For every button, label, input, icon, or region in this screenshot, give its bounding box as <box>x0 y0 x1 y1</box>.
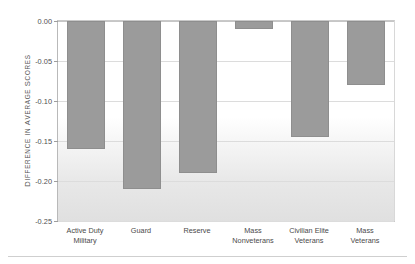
y-axis-tick-mark <box>54 141 58 142</box>
bar <box>291 21 329 137</box>
y-axis-title-part: VERAGE <box>24 86 31 119</box>
y-axis-tick-label: -0.10 <box>35 97 52 106</box>
x-axis-category-label: Civilian Elite Veterans <box>281 226 337 245</box>
bar <box>235 21 273 29</box>
plot-area: 0.00-0.05-0.10-0.15-0.20-0.25 <box>57 20 395 222</box>
y-axis-tick-label: -0.05 <box>35 57 52 66</box>
y-axis-tick-label: -0.20 <box>35 177 52 186</box>
y-axis-tick-mark <box>54 21 58 22</box>
x-axis-category-label: Reserve <box>169 226 225 236</box>
bar <box>347 21 385 85</box>
gridline <box>58 61 394 62</box>
y-axis-title: DIFFERENCE IN AVERAGE SCORES <box>23 26 32 216</box>
y-axis-title-part: A <box>23 119 32 125</box>
gridline <box>58 221 394 222</box>
y-axis-tick-mark <box>54 101 58 102</box>
y-axis-tick-label: -0.15 <box>35 137 52 146</box>
bar-chart-figure: DIFFERENCE IN AVERAGE SCORES 0.00-0.05-0… <box>0 0 415 264</box>
bar <box>179 21 217 173</box>
x-axis-category-label: Mass Nonveterans <box>225 226 281 245</box>
plot-background-shading <box>58 21 394 221</box>
y-axis-title-part: S <box>23 80 32 86</box>
y-axis-tick-mark <box>54 181 58 182</box>
x-axis-category-label: Active Duty Military <box>57 226 113 245</box>
y-axis-tick-mark <box>54 221 58 222</box>
y-axis-tick-label: 0.00 <box>38 17 52 26</box>
y-axis-title-part: IFFERENCE IN <box>24 125 31 180</box>
y-axis-title-part: D <box>23 181 32 187</box>
y-axis-title-part: CORES <box>24 54 31 80</box>
gridline <box>58 101 394 102</box>
bar <box>123 21 161 189</box>
bottom-divider-rule <box>8 256 407 257</box>
x-axis-category-label: Mass Veterans <box>337 226 393 245</box>
y-axis-tick-mark <box>54 61 58 62</box>
gridline <box>58 21 394 22</box>
gridline <box>58 181 394 182</box>
gridline <box>58 141 394 142</box>
y-axis-tick-label: -0.25 <box>35 217 52 226</box>
bar <box>67 21 105 149</box>
x-axis-category-label: Guard <box>113 226 169 236</box>
